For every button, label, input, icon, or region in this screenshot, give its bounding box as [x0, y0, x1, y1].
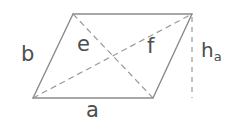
parallelogram-figure: a b e f ha	[0, 0, 231, 127]
height-letter: h	[201, 38, 214, 62]
label-side-b: b	[21, 44, 34, 65]
label-base-a: a	[86, 100, 99, 121]
right-edge	[153, 14, 192, 98]
label-height-ha: ha	[201, 40, 222, 63]
diagonal-f-line	[33, 14, 192, 98]
height-subscript: a	[214, 49, 222, 64]
left-edge	[33, 14, 73, 98]
label-diagonal-e: e	[77, 34, 90, 55]
figure-canvas	[0, 0, 231, 127]
label-diagonal-f: f	[147, 36, 154, 57]
